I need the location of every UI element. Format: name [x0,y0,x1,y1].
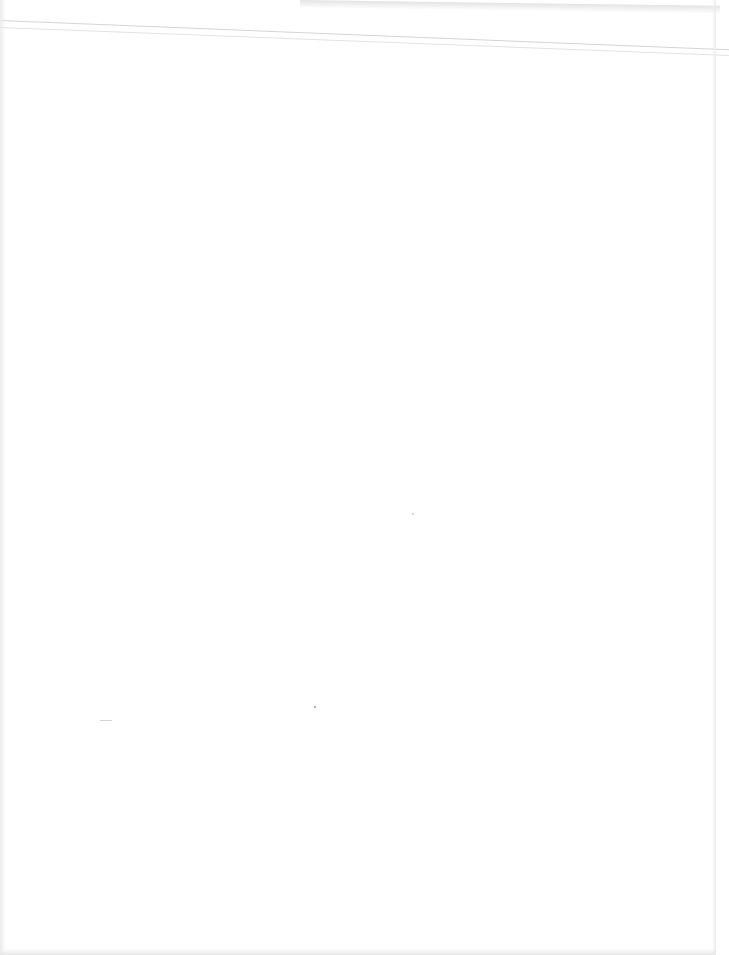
top-edge-shadow [300,0,720,14]
right-edge-shadow [712,0,716,955]
scan-mark [100,720,112,721]
scan-speck [412,513,414,515]
left-edge-shadow [0,0,6,955]
fold-line-faint [0,27,729,56]
fold-line [0,20,729,50]
scan-speck [314,706,316,708]
bottom-edge-shadow [0,949,716,955]
